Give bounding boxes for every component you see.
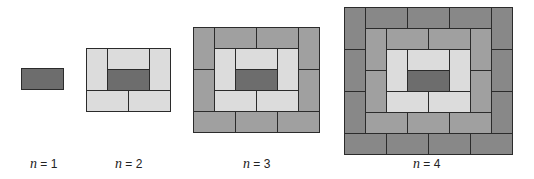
- brick-ring1: [86, 90, 129, 112]
- brick-ring2: [193, 27, 215, 70]
- brick-ring2: [298, 27, 320, 70]
- figure-label-n-2: n = 2: [115, 156, 142, 172]
- brick-ring3: [344, 7, 366, 50]
- brick-ring2: [365, 70, 387, 113]
- brick-ring3: [344, 133, 387, 155]
- brick-ring3: [407, 7, 450, 29]
- brick-ring3: [449, 7, 492, 29]
- brick-ring1: [235, 48, 278, 70]
- brick-ring1: [407, 49, 450, 71]
- brick-ring2: [193, 69, 215, 112]
- label-value: = 2: [122, 157, 142, 171]
- brick-center: [407, 70, 450, 92]
- brick-ring2: [365, 112, 408, 134]
- brick-ring2: [365, 28, 387, 71]
- brick-center: [235, 69, 278, 91]
- brick-ring2: [235, 111, 278, 133]
- brick-ring2: [386, 28, 429, 50]
- brick-ring1: [256, 90, 299, 112]
- brick-ring1: [277, 48, 299, 91]
- brick-ring2: [449, 112, 492, 134]
- brick-ring1: [449, 49, 471, 92]
- brick-ring3: [386, 133, 429, 155]
- brick-ring2: [256, 27, 299, 49]
- brick-ring3: [365, 7, 408, 29]
- label-variable: n: [413, 156, 420, 171]
- brick-ring2: [407, 112, 450, 134]
- brick-ring2: [470, 28, 492, 71]
- label-value: = 3: [250, 157, 270, 171]
- brick-ring3: [491, 7, 513, 50]
- brick-ring2: [193, 111, 236, 133]
- label-value: = 1: [37, 157, 57, 171]
- brick-center: [21, 68, 64, 90]
- label-value: = 4: [420, 157, 440, 171]
- brick-ring2: [214, 27, 257, 49]
- brick-ring3: [491, 49, 513, 92]
- brick-ring1: [128, 90, 171, 112]
- brick-ring2: [470, 70, 492, 113]
- brick-ring2: [428, 28, 471, 50]
- brick-ring1: [214, 48, 236, 91]
- brick-ring3: [428, 133, 471, 155]
- brick-ring2: [277, 111, 320, 133]
- brick-ring1: [214, 90, 257, 112]
- label-variable: n: [115, 156, 122, 171]
- label-variable: n: [243, 156, 250, 171]
- brick-ring3: [344, 49, 366, 92]
- brick-ring3: [491, 91, 513, 134]
- brick-ring1: [86, 48, 108, 91]
- brick-ring2: [298, 69, 320, 112]
- figure-label-n-4: n = 4: [413, 156, 440, 172]
- brick-ring3: [470, 133, 513, 155]
- brick-ring3: [344, 91, 366, 134]
- brick-center: [107, 69, 150, 91]
- figure-label-n-3: n = 3: [243, 156, 270, 172]
- brick-ring1: [386, 91, 429, 113]
- label-variable: n: [30, 156, 37, 171]
- brick-ring1: [428, 91, 471, 113]
- brick-ring1: [386, 49, 408, 92]
- brick-ring1: [149, 48, 171, 91]
- figure-label-n-1: n = 1: [30, 156, 57, 172]
- brick-ring1: [107, 48, 150, 70]
